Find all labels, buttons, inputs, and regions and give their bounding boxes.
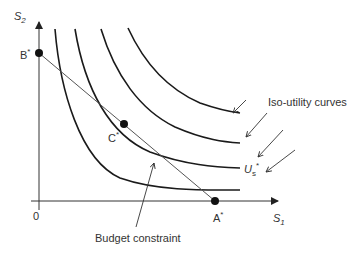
origin-label: 0 — [33, 211, 39, 222]
diagram-canvas — [0, 0, 359, 258]
point-b — [35, 49, 43, 57]
budget-arrow — [136, 163, 154, 227]
us-star-label: Us* — [244, 162, 259, 178]
budget-constraint-label: Budget constraint — [95, 233, 181, 244]
point-a-label: A* — [213, 211, 223, 224]
iso-utility-curve-4 — [128, 28, 240, 113]
iso-utility-label: Iso-utility curves — [268, 97, 347, 108]
iso-utility-curves — [55, 28, 240, 190]
iso-utility-arrows — [233, 100, 295, 172]
budget-constraint-line — [39, 53, 215, 201]
point-a — [211, 197, 219, 205]
iso-utility-curve-2 — [75, 29, 240, 168]
y-axis-label: S2 — [14, 11, 26, 25]
point-c-label: C* — [108, 131, 119, 144]
x-axis-label: S1 — [273, 213, 285, 227]
point-b-label: B* — [20, 48, 30, 61]
point-c — [120, 120, 128, 128]
